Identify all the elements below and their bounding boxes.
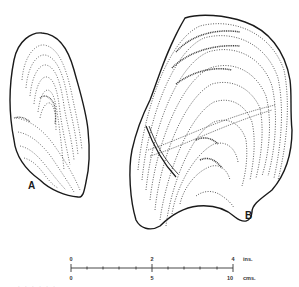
shell-a-drawing <box>10 33 89 197</box>
shell-b-drawing <box>130 15 292 229</box>
scale-tick-inch-2: 2 <box>150 256 153 262</box>
figure-caption-partial: · · · · · · <box>18 283 288 287</box>
scale-tick-inch-4: 4 <box>231 256 234 262</box>
shell-drawings <box>0 0 299 287</box>
scale-tick-cm-10: 10 <box>227 275 233 281</box>
scale-unit-cms: cms. <box>243 275 256 281</box>
scale-tick-cm-0: 0 <box>69 275 72 281</box>
scale-tick-cm-5: 5 <box>150 275 153 281</box>
scale-tick-inch-0: 0 <box>69 256 72 262</box>
shell-figure: A B 0 2 4 ins. 0 5 10 cms. · · · · · · <box>0 0 299 287</box>
specimen-label-b: B <box>245 210 252 221</box>
specimen-label-a: A <box>28 180 35 191</box>
scale-bar <box>71 264 233 272</box>
scale-unit-inches: ins. <box>243 256 252 262</box>
